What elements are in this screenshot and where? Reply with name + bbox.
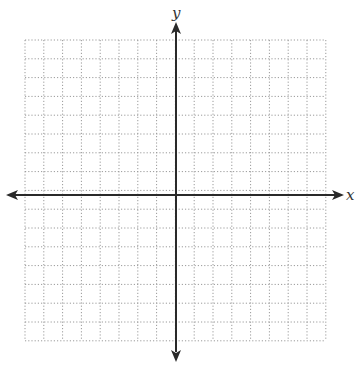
y-axis bbox=[171, 22, 181, 362]
y-axis-label: y bbox=[171, 4, 181, 22]
coordinate-plane: x y bbox=[0, 0, 359, 367]
x-axis-label: x bbox=[346, 186, 355, 204]
